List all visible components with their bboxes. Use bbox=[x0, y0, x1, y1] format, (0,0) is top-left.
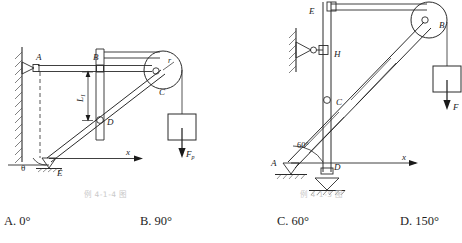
option-a-key: A. bbox=[4, 214, 16, 228]
pin-support-a bbox=[22, 62, 34, 74]
support-a-triangle bbox=[283, 163, 299, 174]
figures-container: A B C D E r x θ L1 Fp bbox=[0, 0, 462, 205]
label-e-right: E bbox=[308, 6, 315, 16]
label-h-right: H bbox=[333, 49, 341, 59]
option-a-value: 0° bbox=[19, 214, 30, 228]
label-d-left: D bbox=[106, 117, 114, 127]
figure-caption-right: 例 4-1-5 图 bbox=[300, 188, 343, 199]
label-b-left: B bbox=[93, 52, 99, 62]
figure-right-svg: E B H C A D x 60° F bbox=[231, 0, 462, 205]
joint-c-pin-right bbox=[324, 97, 331, 104]
label-a-left: A bbox=[35, 52, 42, 62]
label-c-left: C bbox=[159, 87, 166, 97]
label-x-axis-left: x bbox=[125, 147, 130, 157]
option-c-value: 60° bbox=[292, 214, 310, 228]
wall-hatching-left bbox=[15, 52, 22, 163]
label-angle-60: 60° bbox=[297, 140, 309, 150]
option-d-key: D. bbox=[400, 214, 412, 228]
page-root: A B C D E r x θ L1 Fp bbox=[0, 0, 462, 243]
option-c[interactable]: C. 60° bbox=[277, 214, 309, 229]
label-x-axis-right: x bbox=[401, 152, 406, 162]
pulley-axle-right bbox=[422, 17, 428, 23]
ground-hatching-a bbox=[277, 175, 305, 180]
joint-b-marker bbox=[97, 65, 104, 72]
hinge-support-right bbox=[296, 42, 311, 58]
label-l1-left: L1 bbox=[75, 94, 86, 103]
answer-options: A. 0° B. 90° C. 60° D. 150° bbox=[0, 210, 462, 240]
figure-caption-left: 例 4-1-4 图 bbox=[84, 188, 127, 199]
cylinder-seg-4 bbox=[356, 63, 396, 105]
wall-hatching-right bbox=[289, 31, 296, 73]
figure-left-4-1-4: A B C D E r x θ L1 Fp bbox=[0, 0, 231, 205]
label-force-left: Fp bbox=[185, 149, 195, 160]
label-e-left: E bbox=[56, 168, 63, 178]
option-a[interactable]: A. 0° bbox=[4, 214, 31, 229]
option-d-value: 150° bbox=[415, 214, 439, 228]
label-force-right: F bbox=[452, 102, 459, 112]
option-b[interactable]: B. 90° bbox=[140, 214, 172, 229]
figure-left-svg: A B C D E r x θ L1 Fp bbox=[0, 0, 231, 205]
cylinder-seg-1 bbox=[304, 112, 339, 148]
option-d[interactable]: D. 150° bbox=[400, 214, 439, 229]
figure-right-4-1-5: E B H C A D x 60° F bbox=[231, 0, 462, 205]
option-c-key: C. bbox=[277, 214, 288, 228]
label-d-right: D bbox=[333, 162, 341, 172]
force-arrow-head-right bbox=[443, 100, 450, 110]
label-b-right: B bbox=[439, 20, 445, 30]
label-a-right: A bbox=[270, 158, 277, 168]
option-b-value: 90° bbox=[155, 214, 173, 228]
x-axis-arrow-left bbox=[134, 156, 143, 162]
label-theta-left: θ bbox=[21, 163, 25, 173]
force-arrow-head bbox=[178, 148, 185, 158]
x-axis-arrow-right bbox=[409, 160, 418, 166]
cylinder-seg-2 bbox=[351, 58, 391, 100]
option-b-key: B. bbox=[140, 214, 151, 228]
label-c-right: C bbox=[336, 97, 343, 107]
